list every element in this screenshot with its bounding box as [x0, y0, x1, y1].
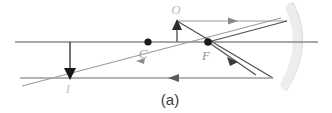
- ray-diagram-canvas: O C F I (a): [0, 0, 332, 113]
- long-diagonal-ray: [22, 18, 281, 86]
- reflected-through-focus-ray: [208, 21, 287, 75]
- label-focal-point: F: [201, 48, 211, 63]
- point-marker-c: [144, 38, 151, 45]
- label-object: O: [171, 2, 181, 17]
- parallel-incident-ray: [177, 18, 287, 25]
- label-center-of-curvature: C: [139, 46, 148, 61]
- reflected-parallel-ray: [20, 74, 273, 82]
- ray-diagram-figure: O C F I (a): [0, 0, 332, 113]
- point-marker-f: [204, 38, 212, 46]
- figure-caption: (a): [161, 91, 179, 108]
- concave-mirror: [285, 5, 301, 88]
- ray-through-focus-incident: [177, 21, 273, 78]
- label-image: I: [65, 81, 71, 96]
